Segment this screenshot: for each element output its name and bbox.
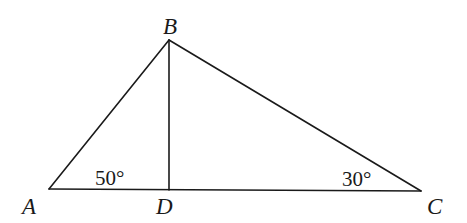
triangle-diagram: B A D C 50° 30° — [0, 0, 467, 223]
vertex-label-a: A — [20, 194, 37, 219]
angle-label-c: 30° — [342, 167, 371, 191]
vertex-label-c: C — [427, 194, 443, 219]
angle-label-a: 50° — [95, 166, 124, 190]
vertex-label-b: B — [163, 14, 177, 39]
vertex-label-d: D — [155, 194, 173, 219]
segment-bc — [169, 40, 421, 191]
